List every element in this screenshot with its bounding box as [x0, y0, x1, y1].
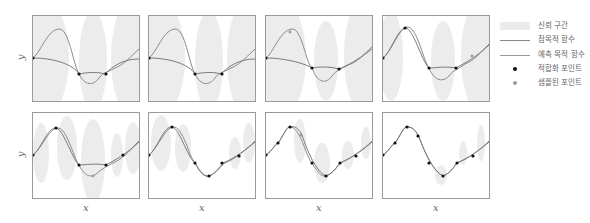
- panel-5: [32, 112, 140, 199]
- panel-3: [265, 15, 373, 102]
- plot-area: [383, 16, 489, 101]
- legend-item-sampled-point: 샘플된 포인트: [500, 76, 590, 90]
- panel-1: [32, 15, 140, 102]
- line-swatch-icon: [500, 55, 530, 56]
- plot-area: [383, 113, 489, 198]
- plot-area: [266, 113, 372, 198]
- plot-area: [149, 113, 255, 198]
- x-axis-label-1: x: [83, 202, 89, 213]
- plot-area: [33, 113, 139, 198]
- band-swatch-icon: [500, 22, 530, 30]
- legend-item-true-function: 참목적 함수: [500, 33, 590, 47]
- x-axis-label-4: x: [433, 202, 439, 213]
- panel-7: [265, 112, 373, 199]
- legend-item-fitted-point: 적합화 포인트: [500, 62, 590, 76]
- legend-item-predicted-function: 예측 목적 함수: [500, 48, 590, 62]
- x-axis-label-2: x: [199, 202, 205, 213]
- gray-dot-icon: [513, 81, 517, 85]
- line-swatch-icon: [500, 40, 530, 41]
- x-axis-label-3: x: [316, 202, 322, 213]
- y-axis-label-bottom: y: [15, 152, 26, 158]
- legend-item-confidence: 신뢰 구간: [500, 19, 590, 33]
- legend-label: 예측 목적 함수: [538, 48, 585, 62]
- legend-label: 적합화 포인트: [538, 62, 582, 76]
- y-axis-label-top: y: [15, 55, 26, 61]
- plot-area: [266, 16, 372, 101]
- panel-8: [382, 112, 490, 199]
- legend-label: 참목적 함수: [538, 33, 575, 47]
- plot-area: [33, 16, 139, 101]
- black-dot-icon: [513, 67, 517, 71]
- panel-6: [148, 112, 256, 199]
- legend-label: 신뢰 구간: [538, 19, 568, 33]
- plot-area: [149, 16, 255, 101]
- panel-2: [148, 15, 256, 102]
- legend-label: 샘플된 포인트: [538, 76, 582, 90]
- panel-4: [382, 15, 490, 102]
